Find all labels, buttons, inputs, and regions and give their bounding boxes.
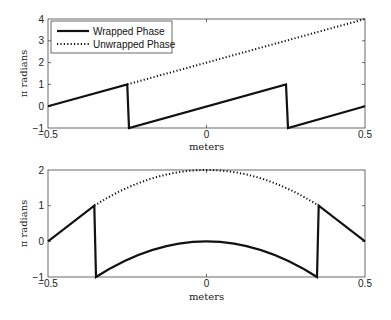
svg-text:1: 1 — [38, 200, 44, 211]
bottom-xlabel: meters — [189, 291, 224, 302]
legend-unwrapped-label: Unwrapped Phase — [93, 39, 176, 50]
svg-text:0.5: 0.5 — [358, 129, 372, 140]
svg-text:3: 3 — [38, 35, 44, 46]
svg-text:0: 0 — [204, 129, 210, 140]
bottom-xtick-labels: −0.5 0 0.5 — [38, 278, 372, 289]
figure: −1 0 1 2 3 4 −0.5 0 0.5 meters π radians… — [0, 0, 391, 320]
svg-text:0.5: 0.5 — [358, 278, 372, 289]
top-ytick-labels: −1 0 1 2 3 4 — [33, 14, 45, 134]
top-ylabel: π radians — [18, 50, 29, 98]
svg-text:2: 2 — [38, 165, 44, 176]
bottom-ytick-labels: −1 0 1 2 — [33, 165, 45, 283]
svg-text:0: 0 — [38, 236, 44, 247]
top-xtick-labels: −0.5 0 0.5 — [38, 129, 372, 140]
svg-text:4: 4 — [38, 14, 44, 25]
top-plot: −1 0 1 2 3 4 −0.5 0 0.5 meters π radians… — [18, 14, 372, 153]
top-xlabel: meters — [189, 141, 224, 152]
svg-text:−0.5: −0.5 — [38, 278, 58, 289]
legend-wrapped-label: Wrapped Phase — [93, 26, 165, 37]
svg-text:0: 0 — [204, 278, 210, 289]
svg-text:−0.5: −0.5 — [38, 129, 58, 140]
bottom-ylabel: π radians — [18, 200, 29, 248]
svg-text:1: 1 — [38, 79, 44, 90]
svg-text:0: 0 — [38, 101, 44, 112]
top-legend: Wrapped Phase Unwrapped Phase — [51, 21, 176, 53]
bottom-plot: −1 0 1 2 −0.5 0 0.5 meters π radians — [18, 165, 372, 303]
svg-text:2: 2 — [38, 57, 44, 68]
